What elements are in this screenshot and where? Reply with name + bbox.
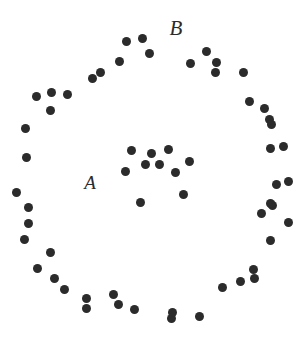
- cluster-label-b: B: [170, 18, 183, 39]
- data-point: [46, 106, 55, 115]
- data-point: [266, 144, 275, 153]
- data-point: [279, 142, 288, 151]
- data-point: [141, 160, 150, 169]
- data-point: [168, 308, 177, 317]
- data-point: [88, 74, 97, 83]
- data-point: [24, 203, 33, 212]
- data-point: [96, 68, 105, 77]
- data-point: [46, 248, 55, 257]
- data-point: [249, 265, 258, 274]
- data-point: [20, 235, 29, 244]
- data-point: [32, 92, 41, 101]
- data-point: [114, 300, 123, 309]
- data-point: [186, 59, 195, 68]
- data-point: [147, 149, 156, 158]
- data-point: [266, 236, 275, 245]
- data-point: [138, 34, 147, 43]
- data-point: [239, 68, 248, 77]
- data-point: [260, 104, 269, 113]
- data-point: [82, 304, 91, 313]
- cluster-label-a: A: [84, 173, 96, 192]
- data-point: [266, 199, 275, 208]
- data-point: [24, 219, 33, 228]
- data-point: [212, 58, 221, 67]
- data-point: [130, 305, 139, 314]
- scatter-plot-figure: AB: [0, 0, 308, 339]
- data-point: [21, 124, 30, 133]
- data-point: [47, 88, 56, 97]
- data-point: [284, 177, 293, 186]
- data-point: [82, 294, 91, 303]
- data-point: [136, 198, 145, 207]
- data-point: [115, 57, 124, 66]
- data-point: [50, 274, 59, 283]
- data-point: [211, 68, 220, 77]
- data-point: [109, 290, 118, 299]
- data-point: [164, 145, 173, 154]
- data-point: [236, 277, 245, 286]
- data-point: [63, 90, 72, 99]
- data-point: [257, 209, 266, 218]
- data-point: [218, 283, 227, 292]
- data-point: [171, 168, 180, 177]
- data-point: [60, 285, 69, 294]
- data-point: [145, 49, 154, 58]
- data-point: [127, 146, 136, 155]
- data-point: [250, 274, 259, 283]
- data-point: [121, 167, 130, 176]
- data-point: [202, 47, 211, 56]
- data-point: [179, 190, 188, 199]
- data-point: [267, 120, 276, 129]
- data-point: [12, 188, 21, 197]
- data-point: [195, 312, 204, 321]
- data-point: [284, 218, 293, 227]
- data-point: [122, 37, 131, 46]
- data-point: [245, 97, 254, 106]
- data-point: [33, 264, 42, 273]
- data-point: [185, 157, 194, 166]
- data-point: [272, 180, 281, 189]
- data-point: [22, 153, 31, 162]
- data-point: [155, 160, 164, 169]
